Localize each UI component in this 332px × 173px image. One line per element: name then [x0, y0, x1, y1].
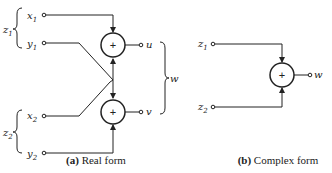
real-form-caption: (a) Real form: [66, 154, 126, 167]
z2-complex-wire: [215, 88, 282, 107]
z1-label: z1: [2, 24, 13, 38]
z1-complex-label: z1: [197, 38, 208, 52]
y2-wire: [46, 125, 113, 153]
real-form-diagram: z1 x1 y1 z2 x2 y2 + + u v: [2, 8, 179, 167]
lower-adder: +: [101, 100, 125, 124]
w-complex-node: [308, 73, 312, 77]
v-label: v: [146, 106, 152, 117]
w-brace: [160, 42, 169, 114]
z1-brace: [13, 8, 22, 48]
y2-node: [42, 151, 46, 155]
complex-form-diagram: z1 z2 + w (b) Complex form: [197, 38, 323, 167]
x1-label: x1: [27, 10, 37, 24]
svg-text:+: +: [110, 106, 116, 118]
y1-label: y1: [26, 38, 37, 52]
z1-complex-wire: [215, 44, 282, 62]
z2-brace: [13, 110, 22, 153]
w-label: w: [170, 73, 179, 84]
u-label: u: [146, 39, 152, 50]
y2-label: y2: [26, 148, 38, 162]
v-node: [139, 110, 143, 114]
y1-node: [42, 41, 46, 45]
x2-node: [42, 114, 46, 118]
w-complex-label: w: [314, 69, 323, 80]
upper-adder: +: [101, 33, 125, 57]
z1-complex-node: [211, 42, 215, 46]
svg-text:+: +: [279, 69, 285, 81]
z2-complex-node: [211, 105, 215, 109]
z2-complex-label: z2: [197, 101, 208, 115]
complex-form-caption: (b) Complex form: [238, 154, 319, 167]
z2-label: z2: [2, 127, 13, 141]
x1-node: [42, 13, 46, 17]
u-node: [139, 43, 143, 47]
butterfly-diagram: z1 x1 y1 z2 x2 y2 + + u v: [0, 0, 332, 173]
svg-text:+: +: [110, 39, 116, 51]
x2-label: x2: [27, 110, 38, 124]
complex-adder: +: [270, 63, 294, 87]
x1-wire: [46, 15, 113, 32]
